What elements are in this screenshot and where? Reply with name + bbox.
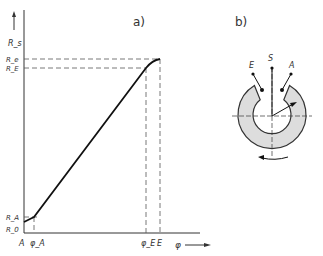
terminal-S-label: S (268, 54, 273, 63)
panel-b-potentiometer: b) E S A (232, 15, 312, 160)
tick-Re: R_e (6, 56, 19, 64)
y-axis-label: R_s (8, 39, 22, 48)
tick-E: E (157, 239, 163, 248)
tick-RA: R_A (6, 214, 19, 222)
guide-lines (24, 59, 160, 233)
resistance-curve (24, 59, 160, 222)
panel-a-chart: a) R_s R_e R_E R_A R_0 A φ_A φ_E E φ (6, 10, 211, 250)
tick-R0: R_0 (6, 226, 19, 234)
terminal-E-label: E (249, 61, 255, 70)
x-axis-label: φ (175, 240, 181, 250)
panel-a-label: a) (133, 15, 145, 29)
tick-phiA: φ_A (30, 239, 45, 248)
terminal-A-label: A (288, 61, 294, 70)
rotation-arrow-icon (262, 157, 288, 159)
tick-A: A (18, 239, 24, 248)
panel-b-label: b) (235, 15, 247, 29)
tick-phiE: φ_E (141, 239, 156, 248)
tick-RE: R_E (6, 65, 19, 73)
potentiometer-diagram: a) R_s R_e R_E R_A R_0 A φ_A φ_E E φ b) (0, 0, 323, 256)
